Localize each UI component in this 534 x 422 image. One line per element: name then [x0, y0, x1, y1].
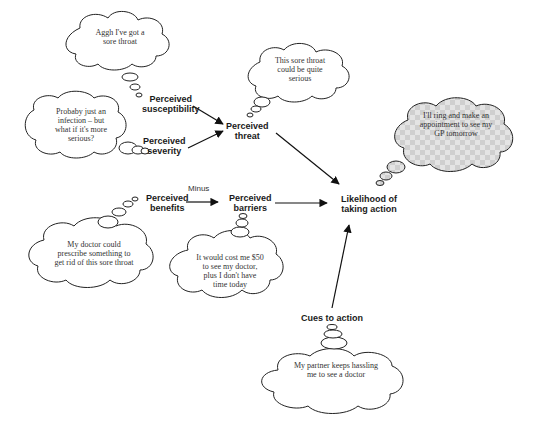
- label-line: Perceived: [229, 193, 272, 203]
- thought-text-susceptibility: Aggh I've got a sore throat: [84, 28, 156, 46]
- thought-line: infection – but: [46, 116, 116, 125]
- node-perceived-benefits: Perceived benefits: [146, 193, 189, 213]
- edge-label-minus: Minus: [188, 184, 209, 193]
- thought-line: to see my doctor,: [188, 262, 272, 271]
- thought-text-benefits: My doctor could prescribe something to g…: [44, 240, 144, 267]
- thought-line: serious: [264, 74, 336, 83]
- node-perceived-susceptibility: Perceived susceptibility: [142, 94, 200, 114]
- node-likelihood-of-taking-action: Likelihood of taking action: [341, 194, 397, 214]
- thought-line: plus I don't have: [188, 271, 272, 280]
- thought-line: get rid of this sore throat: [44, 258, 144, 267]
- thought-cloud-susceptibility: [66, 11, 169, 97]
- thought-text-action: I'll ring and make an appointment to see…: [414, 111, 498, 138]
- thought-line: GP tomorrow: [414, 129, 498, 138]
- node-perceived-threat: Perceived threat: [226, 121, 269, 141]
- label-line: benefits: [146, 203, 189, 213]
- label-line: Perceived: [143, 136, 186, 146]
- thought-line: appointment to see my: [414, 120, 498, 129]
- thought-line: My partner keeps hassling: [286, 361, 386, 370]
- thought-text-cues: My partner keeps hassling me to see a do…: [286, 361, 386, 379]
- thought-text-severity: Probaby just an infection – but what if …: [46, 107, 116, 143]
- thought-line: It would cost me $50: [188, 253, 272, 262]
- thought-line: Aggh I've got a: [84, 28, 156, 37]
- thought-line: sore throat: [84, 37, 156, 46]
- edge-threat-action: [276, 133, 339, 184]
- node-perceived-barriers: Perceived barriers: [229, 193, 272, 213]
- node-perceived-severity: Perceived severity: [143, 136, 186, 156]
- label-line: barriers: [229, 203, 272, 213]
- label-line: Perceived: [226, 121, 269, 131]
- label-line: severity: [143, 146, 186, 156]
- thought-line: I'll ring and make an: [414, 111, 498, 120]
- node-cues-to-action: Cues to action: [301, 313, 363, 323]
- thought-line: My doctor could: [44, 240, 144, 249]
- label-line: susceptibility: [142, 104, 200, 114]
- thought-line: could be quite: [264, 65, 336, 74]
- thought-line: serious?: [46, 134, 116, 143]
- edge-severity-threat: [188, 131, 223, 148]
- label-line: threat: [226, 131, 269, 141]
- label-line: taking action: [341, 204, 397, 214]
- edge-cues-action: [332, 225, 349, 308]
- thought-text-barriers: It would cost me $50 to see my doctor, p…: [188, 253, 272, 289]
- label-line: Perceived: [142, 94, 200, 104]
- label-line: Likelihood of: [341, 194, 397, 204]
- thought-line: Probaby just an: [46, 107, 116, 116]
- thought-text-threat: This sore throat could be quite serious: [264, 56, 336, 83]
- thought-line: This sore throat: [264, 56, 336, 65]
- thought-line: prescribe something to: [44, 249, 144, 258]
- thought-line: me to see a doctor: [286, 370, 386, 379]
- thought-line: time today: [188, 280, 272, 289]
- thought-line: what if it's more: [46, 125, 116, 134]
- label-line: Perceived: [146, 193, 189, 203]
